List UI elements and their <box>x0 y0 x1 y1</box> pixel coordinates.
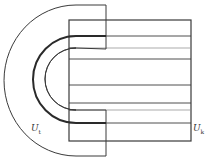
diagram-canvas <box>0 0 208 162</box>
u-core-outline <box>4 5 106 156</box>
label-right-core-main: U <box>193 123 201 133</box>
label-right-core: Uk <box>193 124 204 135</box>
label-left-core-main: U <box>31 123 39 133</box>
label-left-core-sub: t <box>39 128 41 135</box>
label-left-core: Ut <box>31 124 41 135</box>
label-right-core-sub: k <box>201 128 205 135</box>
u-core-inner-arc <box>45 48 76 110</box>
